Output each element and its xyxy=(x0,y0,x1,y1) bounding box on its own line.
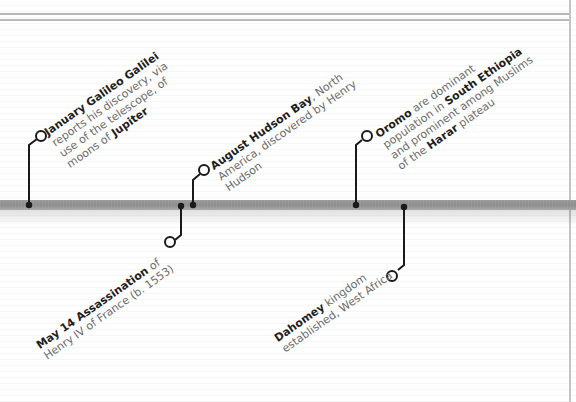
anchor-dot-dahomey xyxy=(401,204,407,210)
node-hudson-bay xyxy=(199,165,209,175)
node-oromo xyxy=(362,131,372,141)
anchor-dot-galileo xyxy=(26,202,32,208)
node-henry-iv xyxy=(165,237,175,247)
connector-dahomey xyxy=(398,207,404,270)
anchor-dot-hudson-bay xyxy=(190,202,196,208)
connector-oromo xyxy=(356,140,362,205)
connector-henry-iv xyxy=(175,206,181,240)
connector-galileo xyxy=(29,139,37,205)
connector-hudson-bay xyxy=(193,174,200,205)
anchor-dot-oromo xyxy=(353,202,359,208)
anchor-dot-henry-iv xyxy=(178,203,184,209)
